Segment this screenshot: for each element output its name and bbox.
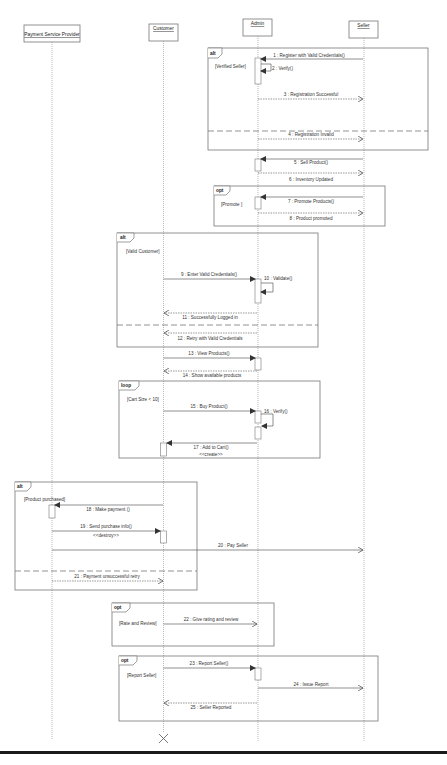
frame-operator: loop xyxy=(121,383,131,388)
activation-bar xyxy=(255,279,261,303)
activation-bar xyxy=(255,668,261,680)
lifeline-customer: Customer xyxy=(149,24,178,743)
lifeline-label: Customer xyxy=(153,26,174,31)
activation-bar xyxy=(49,505,55,518)
message-3-label: 3 : Registration Successful xyxy=(284,92,338,97)
message-21-label: 21 : Payment unsuccessful retry xyxy=(74,574,140,579)
frame-guard: [Cart Size < 10] xyxy=(127,397,159,402)
message-19-stereotype: <<destroy>> xyxy=(93,533,119,538)
message-22-label: 22 : Give rating and review xyxy=(184,617,239,622)
frame-operator: alt xyxy=(17,484,23,489)
activation-bar xyxy=(255,358,261,370)
lifeline-label: Admin xyxy=(251,21,265,26)
message-10-label: 10 : Validate() xyxy=(264,276,293,281)
activation-bar xyxy=(161,531,167,543)
frame-guard: [Valid Customer] xyxy=(126,249,160,254)
message-11-label: 11 : Successfully Logged in xyxy=(182,315,238,320)
message-5-label: 5 : Sell Product() xyxy=(294,160,329,165)
message-12-label: 12 : Retry with Valid Credentials xyxy=(177,336,243,341)
frame-opt-report-seller: opt [Report Seller] xyxy=(119,656,378,721)
activation-bar xyxy=(255,159,261,171)
frame-guard: [Product purchased] xyxy=(24,497,65,502)
message-17-stereotype: <<create>> xyxy=(199,452,223,457)
lifeline-payment-service-provider: Payment Service Provider xyxy=(24,25,80,740)
message-23-label: 23 : Report Seller() xyxy=(190,661,229,666)
activation-bar xyxy=(255,427,261,439)
frame-operator: opt xyxy=(121,658,129,663)
lifeline-seller: Seller xyxy=(349,21,378,742)
message-24-label: 24 : Issue Report xyxy=(294,682,330,687)
destroy-x-icon xyxy=(159,734,168,743)
lifeline-admin: Admin xyxy=(243,19,272,742)
frame-alt-valid-customer: alt [Valid Customer] xyxy=(117,233,318,347)
message-19-label: 19 : Send purchase info() xyxy=(80,524,132,529)
message-18-label: 18 : Make payment () xyxy=(86,507,130,512)
activation-bar xyxy=(255,58,261,84)
frame-guard: [Verified Seller] xyxy=(215,64,246,69)
message-17-label: 17 : Add to Cart() xyxy=(194,445,229,450)
message-1-label: 1 : Register with Valid Credentials() xyxy=(273,53,345,58)
frame-operator: alt xyxy=(120,235,126,240)
frame-opt-rate-and-review: opt [Rate and Review] xyxy=(112,603,274,646)
frame-guard: [Promote ] xyxy=(221,202,242,207)
message-16-label: 16 : Verify() xyxy=(264,409,288,414)
activation-bar xyxy=(161,443,167,456)
message-20-label: 20 : Pay Seller xyxy=(218,543,248,548)
message-15-label: 15 : Buy Product() xyxy=(190,404,227,409)
frame-guard: [Rate and Review] xyxy=(119,621,157,626)
frame-operator: alt xyxy=(210,51,216,56)
message-8-label: 8 : Product promoted xyxy=(290,216,333,221)
lifeline-label: Seller xyxy=(357,23,370,28)
message-7-label: 7 : Promote Products() xyxy=(288,199,335,204)
frame-operator: opt xyxy=(216,188,224,193)
message-6-label: 6 : Inventory Updated xyxy=(289,177,333,182)
sequence-diagram: Payment Service Provider Customer Admin … xyxy=(0,0,447,765)
lifeline-label: Payment Service Provider xyxy=(24,32,80,37)
activation-bar xyxy=(255,411,261,423)
message-14-label: 14 : Show available products xyxy=(183,373,242,378)
message-4-label: 4 : Registration Invalid xyxy=(288,132,334,137)
frame-operator: opt xyxy=(114,605,122,610)
activation-bar xyxy=(255,197,261,209)
message-2-label: 2 : Verify() xyxy=(272,66,293,71)
frame-guard: [Report Seller] xyxy=(127,673,156,678)
message-13-label: 13 : View Products() xyxy=(188,351,230,356)
message-25-label: 25 : Seller Reported xyxy=(191,705,232,710)
bottom-border-bar xyxy=(0,751,447,754)
message-9-label: 9 : Enter Valid Credentials() xyxy=(181,272,238,277)
